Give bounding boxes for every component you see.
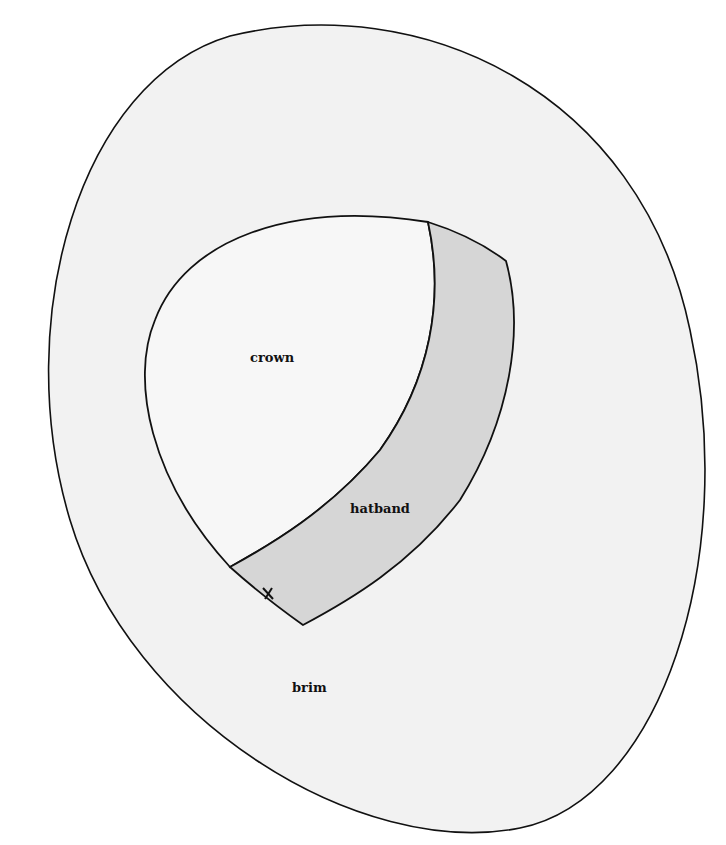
brim-label: brim xyxy=(292,680,327,695)
hatband-label: hatband xyxy=(350,501,410,516)
crown-label: crown xyxy=(250,350,295,365)
hat-diagram: crown hatband brim xyxy=(0,0,726,845)
